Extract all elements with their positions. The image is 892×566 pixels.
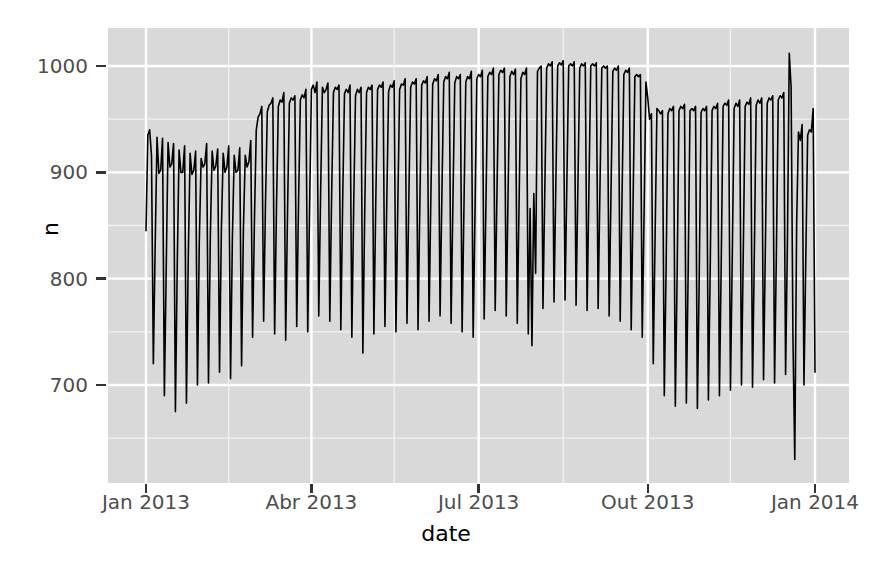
x-tick-mark bbox=[814, 484, 817, 493]
x-tick-mark bbox=[647, 484, 650, 493]
y-tick-label: 1000 bbox=[18, 56, 88, 76]
x-tick-label: Out 2013 bbox=[573, 492, 723, 512]
y-tick-mark bbox=[96, 65, 106, 68]
y-tick-mark bbox=[96, 277, 106, 280]
chart-figure: n date 7008009001000 Jan 2013Abr 2013Jul… bbox=[0, 0, 892, 566]
plot-panel bbox=[108, 28, 849, 483]
y-tick-label: 900 bbox=[18, 162, 88, 182]
y-tick-label: 800 bbox=[18, 269, 88, 289]
data-line-series bbox=[108, 28, 849, 483]
x-tick-label: Abr 2013 bbox=[236, 492, 386, 512]
x-tick-mark bbox=[477, 484, 480, 493]
series-line-n bbox=[146, 53, 815, 459]
y-tick-mark bbox=[96, 384, 106, 387]
y-axis-title: n bbox=[38, 222, 63, 236]
x-tick-mark bbox=[145, 484, 148, 493]
y-tick-label: 700 bbox=[18, 375, 88, 395]
x-tick-label: Jan 2014 bbox=[740, 492, 890, 512]
x-tick-label: Jul 2013 bbox=[404, 492, 554, 512]
x-tick-label: Jan 2013 bbox=[71, 492, 221, 512]
y-tick-mark bbox=[96, 171, 106, 174]
x-tick-mark bbox=[310, 484, 313, 493]
x-axis-title: date bbox=[0, 521, 892, 546]
